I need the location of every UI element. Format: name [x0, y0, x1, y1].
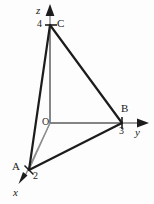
x-tick-label-2: 2	[33, 171, 38, 181]
vertex-label-C: C	[57, 18, 64, 29]
x-axis-label: x	[13, 187, 18, 198]
edge-C-to-B	[50, 25, 122, 123]
edge-A-to-C	[29, 25, 50, 170]
vertex-label-A: A	[12, 161, 20, 172]
edge-A-to-B	[29, 123, 122, 170]
y-axis-label: y	[135, 127, 140, 138]
arrowhead-group	[19, 4, 150, 184]
origin-edges-group	[29, 25, 122, 170]
z-tick-label-4: 4	[37, 19, 42, 29]
coordinate-diagram-figure: z 4 C B 3 y O A 2 x	[0, 0, 154, 204]
diagram-canvas	[0, 0, 154, 204]
y-tick-label-3: 3	[119, 126, 124, 136]
origin-label: O	[42, 117, 49, 127]
tetrahedron-edges-group	[29, 25, 122, 170]
vertex-label-B: B	[121, 103, 128, 114]
z-axis-arrowhead	[46, 4, 55, 16]
axis-group	[24, 12, 141, 178]
z-axis-label: z	[36, 5, 40, 16]
